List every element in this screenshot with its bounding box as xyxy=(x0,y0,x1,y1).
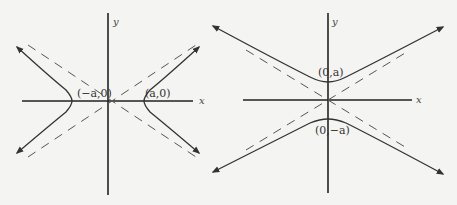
x-axis-label: x xyxy=(416,94,422,105)
vertex-label-left: (−a,0) xyxy=(77,87,112,100)
right-branch xyxy=(144,47,199,153)
vertex-label-right: (a,0) xyxy=(145,87,171,100)
left-branch xyxy=(17,47,72,153)
y-axis-label: y xyxy=(331,16,338,27)
vertical-hyperbola-figure: (0,a) (0,−a) x y xyxy=(213,13,443,193)
vertex-label-bottom: (0,−a) xyxy=(315,124,350,137)
vertex-label-top: (0,a) xyxy=(318,66,344,79)
y-axis-label: y xyxy=(112,16,119,27)
horizontal-hyperbola-figure: (−a,0) (a,0) x y xyxy=(17,13,205,195)
x-axis-label: x xyxy=(199,95,205,106)
hyperbola-diagrams: (−a,0) (a,0) x y (0,a) (0,−a) x y xyxy=(0,0,457,205)
